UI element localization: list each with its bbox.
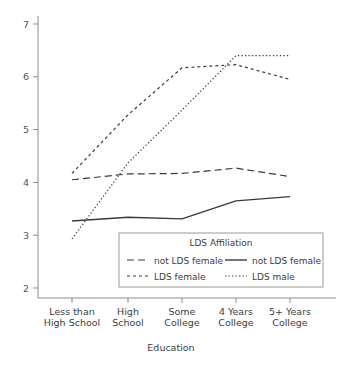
legend-label-3: LDS male <box>252 272 295 282</box>
x-axis-title: Education <box>147 342 194 353</box>
y-tick-label: 5 <box>23 124 29 135</box>
legend-label-0: not LDS female <box>154 256 224 266</box>
y-tick-label: 3 <box>23 230 29 241</box>
line-chart: 234567 Less thanHigh SchoolHighSchoolSom… <box>0 0 343 366</box>
x-tick-label: 4 Years <box>219 306 253 317</box>
legend-label-2: LDS female <box>154 272 206 282</box>
x-tick-label: College <box>218 317 254 328</box>
chart-canvas: 234567 Less thanHigh SchoolHighSchoolSom… <box>0 0 343 366</box>
y-tick-label: 2 <box>23 283 29 294</box>
x-tick-label: High School <box>44 317 100 328</box>
x-tick-label: Less than <box>49 306 94 317</box>
y-tick-label: 4 <box>23 177 29 188</box>
x-tick-label: College <box>164 317 200 328</box>
y-tick-label: 6 <box>23 71 29 82</box>
chart-legend: LDS Affiliationnot LDS femalenot LDS fem… <box>119 233 323 287</box>
x-tick-label: College <box>272 317 308 328</box>
y-tick-label: 7 <box>23 19 29 30</box>
x-tick-label: 5+ Years <box>269 306 311 317</box>
x-tick-label: School <box>112 317 144 328</box>
x-tick-label: Some <box>169 306 196 317</box>
legend-title: LDS Affiliation <box>189 238 252 248</box>
legend-label-1: not LDS female <box>252 256 322 266</box>
x-tick-label: High <box>117 306 139 317</box>
